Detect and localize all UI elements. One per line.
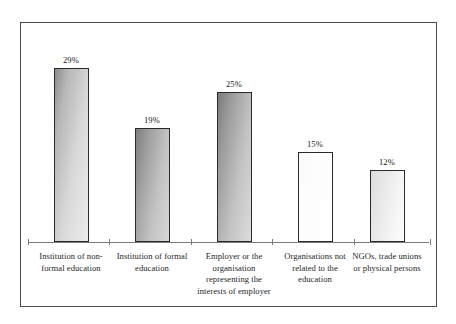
category-label-3: Employer or the organisation representin… bbox=[188, 251, 280, 297]
axis-tick-0 bbox=[28, 239, 29, 245]
category-label-5-line-1: NGOs, trade unions bbox=[341, 251, 433, 263]
axis-tick-1 bbox=[109, 239, 110, 245]
bar-value-label-3: 25% bbox=[226, 79, 242, 90]
bar-value-label-4: 15% bbox=[307, 139, 323, 150]
bar-rect-4[interactable] bbox=[298, 152, 333, 242]
chart-frame-border: 29% 19% 25% 15% 12% bbox=[20, 22, 437, 307]
category-label-2-line-2: education bbox=[106, 263, 198, 275]
bar-column-3[interactable]: 25% bbox=[196, 23, 272, 242]
category-label-5: NGOs, trade unions or physical persons bbox=[341, 251, 433, 274]
category-label-5-line-2: or physical persons bbox=[341, 263, 433, 275]
category-label-2: Institution of formal education bbox=[106, 251, 198, 274]
bar-column-2[interactable]: 19% bbox=[114, 23, 190, 242]
axis-tick-5 bbox=[430, 239, 431, 245]
bar-value-label-2: 19% bbox=[144, 115, 160, 126]
axis-tick-3 bbox=[272, 239, 273, 245]
category-label-3-line-4: interests of employer bbox=[188, 286, 280, 298]
category-label-4-line-3: education bbox=[269, 274, 361, 286]
bar-rect-3[interactable] bbox=[217, 92, 252, 242]
bar-rect-2[interactable] bbox=[135, 128, 170, 242]
bar-rect-5[interactable] bbox=[370, 170, 405, 242]
bar-column-1[interactable]: 29% bbox=[33, 23, 109, 242]
chart-figure: 29% 19% 25% 15% 12% bbox=[0, 0, 456, 324]
category-label-1-line-1: Institution of non- bbox=[25, 251, 117, 263]
bar-rect-1[interactable] bbox=[54, 68, 89, 242]
category-label-2-line-1: Institution of formal bbox=[106, 251, 198, 263]
bar-column-4[interactable]: 15% bbox=[277, 23, 353, 242]
plot-area: 29% 19% 25% 15% 12% bbox=[21, 23, 436, 306]
category-label-1: Institution of non- formal education bbox=[25, 251, 117, 274]
bar-column-5[interactable]: 12% bbox=[349, 23, 425, 242]
category-label-3-line-1: Employer or the bbox=[188, 251, 280, 263]
category-axis-line bbox=[28, 242, 429, 243]
axis-tick-4 bbox=[354, 239, 355, 245]
category-label-1-line-2: formal education bbox=[25, 263, 117, 275]
bar-value-label-5: 12% bbox=[379, 157, 395, 168]
category-label-3-line-3: representing the bbox=[188, 274, 280, 286]
category-label-3-line-2: organisation bbox=[188, 263, 280, 275]
axis-tick-2 bbox=[191, 239, 192, 245]
bar-value-label-1: 29% bbox=[63, 55, 79, 66]
